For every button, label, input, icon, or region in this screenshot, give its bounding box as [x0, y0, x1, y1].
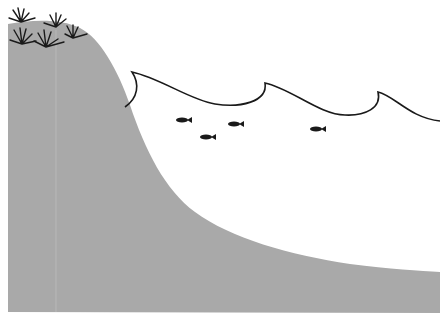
fish	[228, 121, 244, 127]
land-slope	[8, 21, 440, 313]
fish-school	[176, 117, 326, 140]
fish	[310, 126, 326, 132]
wave-line	[125, 72, 440, 121]
fish	[176, 117, 192, 123]
fish	[200, 134, 216, 140]
scene-svg	[0, 0, 445, 321]
grass-tuft	[9, 8, 35, 22]
illustration	[0, 0, 445, 321]
